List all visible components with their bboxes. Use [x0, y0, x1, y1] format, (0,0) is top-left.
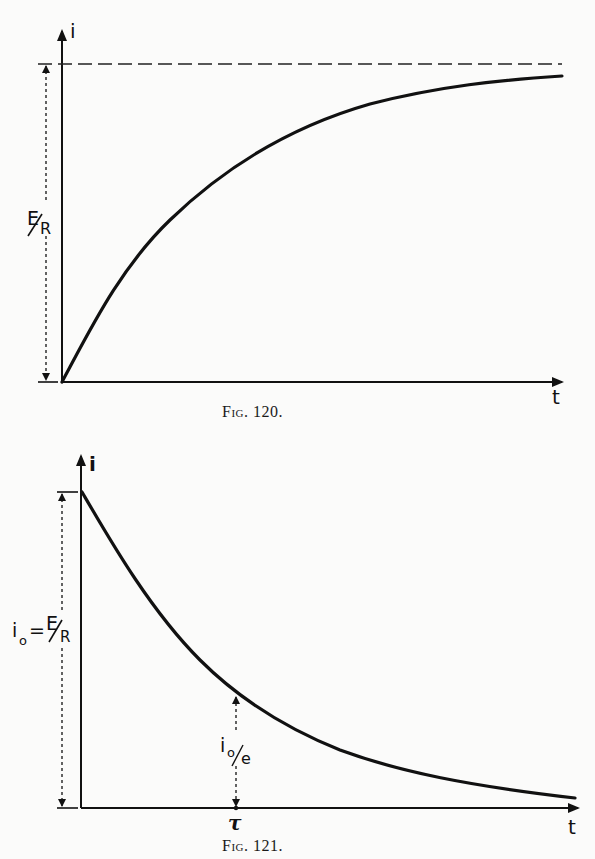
- fig-120: i t E R: [27, 19, 562, 409]
- svg-text:i: i: [220, 734, 225, 756]
- fig121-i0-label: i o = E R: [12, 612, 70, 648]
- svg-text:R: R: [60, 628, 70, 646]
- svg-text:i: i: [12, 619, 17, 641]
- svg-text:o: o: [227, 745, 235, 760]
- fig120-x-axis-label: t: [552, 385, 560, 409]
- svg-text:e: e: [241, 749, 251, 768]
- fig121-tau-point: [234, 806, 238, 810]
- svg-text:o: o: [19, 633, 27, 648]
- fig121-y-axis-label: i: [89, 452, 96, 476]
- fig120-rise-curve: [62, 76, 562, 382]
- fig120-y-axis-label: i: [70, 19, 76, 43]
- fig-121: i t τ i o = E R i o e: [12, 452, 578, 839]
- svg-text:R: R: [40, 219, 51, 238]
- fig120-caption: Fig. 120.: [222, 403, 283, 421]
- figure-canvas: i t E R i t τ i o = E: [0, 0, 595, 859]
- fig121-tau-label: τ: [228, 811, 242, 835]
- fig120-dimension-label: E R: [27, 207, 51, 238]
- fig121-caption: Fig. 121.: [222, 837, 283, 855]
- fig121-io-e-label: i o e: [220, 734, 251, 768]
- svg-text:E: E: [27, 207, 39, 229]
- svg-text:=: =: [29, 619, 45, 641]
- fig121-x-axis-label: t: [568, 815, 576, 839]
- fig121-decay-curve: [82, 492, 575, 798]
